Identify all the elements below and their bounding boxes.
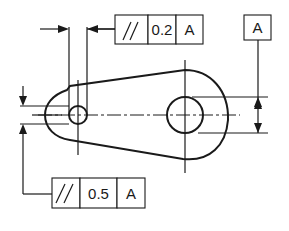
feature-control-frame-top: 0.2 A [115, 15, 203, 44]
fcf-bottom-datum: A [126, 185, 136, 202]
gdt-drawing: A 0.2 A 0.5 A [0, 0, 289, 231]
fcf-top-tolerance: 0.2 [152, 21, 173, 38]
datum-feature-label: A [252, 19, 262, 36]
arrowhead-right [58, 25, 69, 33]
feature-control-frame-bottom: 0.5 A [52, 178, 145, 208]
arrowhead-down [19, 96, 27, 106]
arrowhead-up [19, 124, 27, 134]
datum-arrowhead-bottom [254, 123, 262, 133]
fcf-bottom-tolerance: 0.5 [88, 185, 109, 202]
fcf-top-datum: A [184, 21, 194, 38]
